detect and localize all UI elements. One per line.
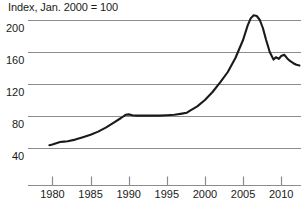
x-tick-label-2000: 2000 [193,188,217,200]
x-tick-label-1995: 1995 [155,188,179,200]
x-tick-label-1985: 1985 [78,188,102,200]
chart-plot-area [0,0,307,214]
y-tick-label-200: 200 [6,22,24,34]
x-tick-label-2005: 2005 [231,188,255,200]
y-tick-label-160: 160 [6,54,24,66]
y-tick-label-80: 80 [12,118,24,130]
gridline-group [28,21,301,149]
y-tick-label-40: 40 [12,150,24,162]
x-tick-label-1980: 1980 [40,188,64,200]
x-tick-label-1990: 1990 [116,188,140,200]
x-axis-group [28,177,301,186]
data-series-line [49,15,299,145]
x-tick-label-2010: 2010 [269,188,293,200]
y-tick-label-120: 120 [6,86,24,98]
chart-container: Index, Jan. 2000 = 100 2001601208040 198… [0,0,307,214]
